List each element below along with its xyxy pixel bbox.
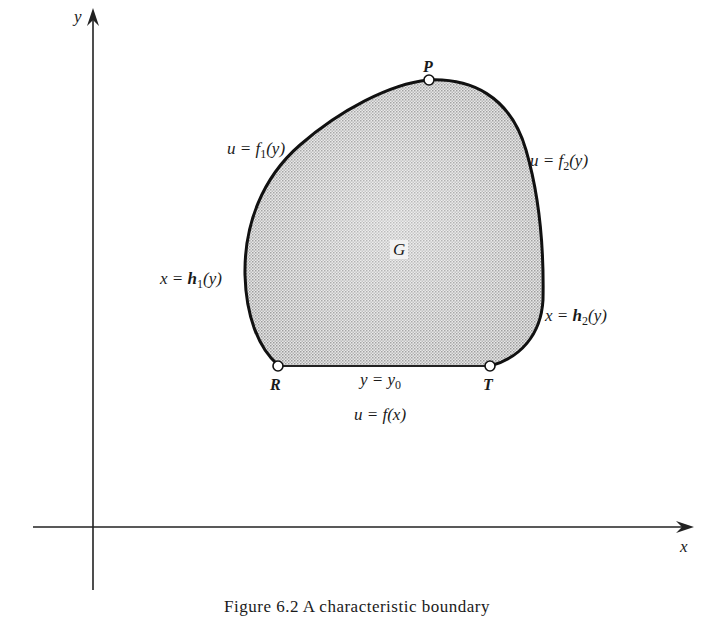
point-t-label: T	[483, 377, 493, 393]
point-p-label: P	[423, 59, 433, 75]
label-u-f2: u = f2(y)	[530, 152, 588, 172]
y-axis	[87, 8, 99, 590]
point-r-marker	[273, 361, 283, 371]
point-t-marker	[485, 361, 495, 371]
x-axis-label: x	[680, 538, 688, 555]
label-u-f1: u = f1(y)	[227, 140, 285, 160]
point-r-label: R	[270, 377, 281, 393]
y-axis-label: y	[74, 8, 82, 25]
label-y-y0: y = y0	[360, 371, 401, 391]
region-label: G	[390, 240, 408, 259]
label-x-h2: x = h2(y)	[545, 307, 607, 327]
x-axis	[33, 521, 694, 533]
point-p-marker	[424, 75, 434, 85]
region-g	[245, 80, 543, 366]
label-u-fx: u = f(x)	[354, 406, 406, 423]
label-x-h1: x = h1(y)	[160, 270, 222, 290]
figure-caption: Figure 6.2 A characteristic boundary	[0, 597, 714, 617]
